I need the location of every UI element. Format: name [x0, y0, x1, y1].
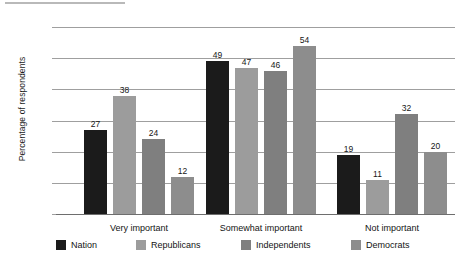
legend-item[interactable]: Independents — [241, 240, 311, 250]
bar-value-label: 27 — [91, 119, 100, 129]
bar[interactable]: 49 — [206, 61, 229, 214]
bar[interactable]: 27 — [84, 130, 107, 214]
bar-value-label: 54 — [300, 35, 309, 45]
bar-chart-figure: Percentage of respondents 0102030405060 … — [0, 0, 467, 277]
bar[interactable]: 12 — [171, 177, 194, 214]
legend-swatch-icon — [241, 240, 251, 250]
axis-baseline — [56, 214, 455, 215]
bar[interactable]: 20 — [424, 152, 447, 214]
bar-value-label: 32 — [402, 103, 411, 113]
legend-label: Nation — [71, 240, 97, 250]
legend-item[interactable]: Nation — [56, 240, 97, 250]
legend-swatch-icon — [351, 240, 361, 250]
bar[interactable]: 54 — [293, 46, 316, 214]
bar-value-label: 19 — [344, 144, 353, 154]
x-axis-category-label: Somewhat important — [220, 223, 303, 233]
bar[interactable]: 38 — [113, 96, 136, 214]
bar-group: 49474654 — [206, 27, 316, 214]
bar[interactable]: 46 — [264, 71, 287, 214]
legend-label: Independents — [256, 240, 311, 250]
bar-value-label: 24 — [149, 128, 158, 138]
x-axis-category-label: Not important — [365, 223, 419, 233]
bar-value-label: 12 — [178, 166, 187, 176]
bar-value-label: 20 — [431, 141, 440, 151]
bar[interactable]: 11 — [366, 180, 389, 214]
legend-label: Democrats — [366, 240, 410, 250]
y-axis-title: Percentage of respondents — [17, 29, 27, 189]
bar-value-label: 47 — [242, 57, 251, 67]
top-rule-divider — [5, 2, 125, 4]
y-tick-mark — [52, 214, 56, 215]
plot-area: 0102030405060 273824124947465419113220 V… — [56, 27, 455, 214]
bar-group: 27382412 — [84, 27, 194, 214]
legend-label: Republicans — [151, 240, 201, 250]
bar[interactable]: 19 — [337, 155, 360, 214]
bar[interactable]: 47 — [235, 68, 258, 214]
bar-value-label: 38 — [120, 85, 129, 95]
legend-swatch-icon — [56, 240, 66, 250]
x-axis-category-label: Very important — [110, 223, 168, 233]
legend-item[interactable]: Republicans — [136, 240, 201, 250]
legend-swatch-icon — [136, 240, 146, 250]
bar-value-label: 11 — [373, 169, 382, 179]
bar-series-container: 273824124947465419113220 — [56, 27, 455, 214]
bar-group: 19113220 — [337, 27, 447, 214]
chart-legend: NationRepublicansIndependentsDemocrats — [56, 240, 455, 256]
bar[interactable]: 24 — [142, 139, 165, 214]
bar-value-label: 46 — [271, 60, 280, 70]
bar[interactable]: 32 — [395, 114, 418, 214]
legend-item[interactable]: Democrats — [351, 240, 410, 250]
bar-value-label: 49 — [213, 50, 222, 60]
